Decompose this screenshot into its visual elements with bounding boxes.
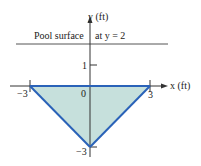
y-axis-label: y (ft) — [88, 11, 108, 23]
pool-surface-label: Pool surface — [34, 30, 84, 41]
x-axis-label: x (ft) — [170, 80, 190, 92]
y-tick-label-neg3: −3 — [76, 146, 87, 157]
x-tick-label-0: 0 — [81, 88, 86, 99]
y-tick-label-1: 1 — [82, 60, 87, 71]
x-tick-label-3: 3 — [148, 89, 153, 100]
x-tick-label-neg3: −3 — [17, 88, 28, 99]
x-axis-arrow-icon — [161, 84, 168, 89]
pool-surface-equation: at y = 2 — [95, 30, 125, 41]
pool-cross-section-diagram: y (ft) Pool surface at y = 2 x (ft) 1 −3… — [0, 0, 201, 166]
